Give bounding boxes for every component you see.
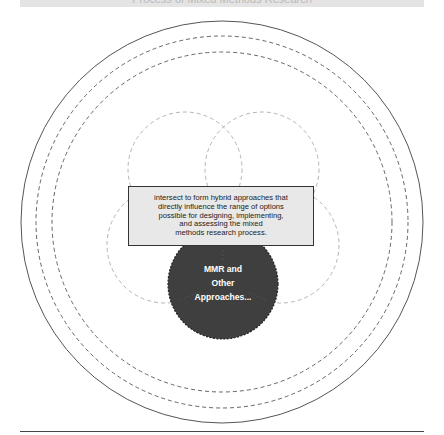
center-text: intersect to form hybrid approaches that… — [154, 194, 288, 239]
bottom-divider — [20, 431, 424, 432]
core-label: MMR and Other Approaches... — [168, 262, 278, 304]
core-label-line-3: Approaches... — [168, 290, 278, 304]
center-text-line-3: possible for designing, implementing, — [159, 211, 284, 220]
center-text-line-4: and assessing the mixed — [179, 219, 263, 228]
core-label-line-2: Other — [168, 276, 278, 290]
center-text-line-1: intersect to form hybrid approaches that — [154, 193, 288, 202]
center-text-line-5: methods research process. — [175, 228, 267, 237]
core-label-line-1: MMR and — [168, 262, 278, 276]
center-text-box: intersect to form hybrid approaches that… — [128, 186, 314, 246]
center-text-line-2: directly influence the range of options — [158, 202, 284, 211]
